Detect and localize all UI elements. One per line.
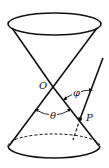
top-cone-rim: [8, 13, 101, 35]
point-p: [78, 117, 82, 121]
double-cone-diagram: [0, 0, 109, 168]
upper-left-generator: [12, 28, 53, 87]
point-label: P: [86, 113, 93, 123]
bottom-rim-back: [8, 134, 100, 146]
theta-label: θ: [49, 111, 57, 121]
bottom-rim-front: [8, 146, 100, 158]
crossing-line: [80, 58, 103, 119]
upper-right-generator: [53, 28, 97, 87]
phi-label: φ: [72, 88, 81, 98]
lower-left-generator: [9, 87, 53, 146]
crossing-line-hidden: [73, 119, 80, 140]
vertex-label: O: [39, 81, 47, 91]
phi-arrow-left: [63, 96, 67, 100]
